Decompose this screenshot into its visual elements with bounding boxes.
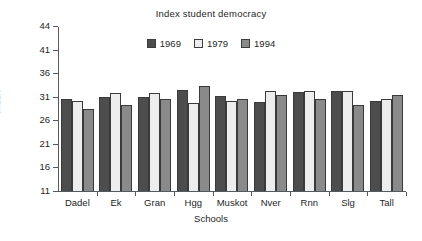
chart-title: Index student democracy xyxy=(0,8,422,19)
bar xyxy=(83,109,94,192)
y-axis-tick: 44 xyxy=(53,26,58,27)
y-axis-tick: 41 xyxy=(53,50,58,51)
x-axis-label: Muskot xyxy=(217,197,248,208)
bar-chart: Index student democracy 196919791994 Ind… xyxy=(0,0,422,241)
plot-area: 1116212631364144 xyxy=(58,27,406,192)
x-axis-label: Rnn xyxy=(301,197,318,208)
bar xyxy=(254,102,265,191)
y-axis-tick-label: 21 xyxy=(39,138,50,149)
x-axis-tick xyxy=(135,192,136,196)
y-axis-tick-label: 31 xyxy=(39,91,50,102)
x-axis-tick xyxy=(97,192,98,196)
x-axis-tick xyxy=(174,192,175,196)
x-axis-title: Schools xyxy=(0,213,422,224)
bar xyxy=(199,86,210,191)
bar-group xyxy=(97,93,136,191)
bar xyxy=(177,90,188,191)
x-axis-tick xyxy=(213,192,214,196)
x-axis-tick xyxy=(329,192,330,196)
x-axis-tick xyxy=(251,192,252,196)
bar xyxy=(381,99,392,191)
bar-group xyxy=(58,99,97,191)
bar xyxy=(331,91,342,191)
bar-group xyxy=(251,91,290,191)
bar xyxy=(353,105,364,191)
x-axis-label: Dadel xyxy=(65,197,90,208)
y-axis-tick-label: 44 xyxy=(39,20,50,31)
bar xyxy=(265,91,276,191)
bar xyxy=(370,101,381,192)
bar xyxy=(61,99,72,191)
bar xyxy=(342,91,353,191)
bar xyxy=(121,105,132,191)
bar xyxy=(188,103,199,191)
x-axis-tick xyxy=(406,192,407,196)
bar xyxy=(138,97,149,191)
bar-group xyxy=(213,96,252,191)
y-axis-tick: 36 xyxy=(53,73,58,74)
bar xyxy=(226,101,237,191)
bar xyxy=(237,99,248,191)
bar-group xyxy=(290,91,329,191)
bar xyxy=(392,95,403,191)
x-axis-label: Hgg xyxy=(185,197,202,208)
bar xyxy=(149,93,160,191)
y-axis-tick-label: 36 xyxy=(39,67,50,78)
y-axis-tick: 11 xyxy=(53,191,58,192)
x-axis-label: Tall xyxy=(380,197,394,208)
bar xyxy=(304,91,315,191)
bar xyxy=(276,95,287,191)
bar xyxy=(293,92,304,191)
bar xyxy=(72,101,83,192)
bar-group xyxy=(174,86,213,191)
y-axis-title: Index xyxy=(0,72,2,132)
x-axis-label: Slg xyxy=(341,197,355,208)
bar xyxy=(110,93,121,191)
x-axis-line xyxy=(58,191,406,192)
bar xyxy=(99,97,110,191)
x-axis-tick xyxy=(290,192,291,196)
y-axis-tick-label: 11 xyxy=(40,185,50,196)
y-axis-tick-label: 16 xyxy=(39,161,50,172)
bar xyxy=(315,99,326,191)
x-axis-label: Nver xyxy=(261,197,281,208)
y-axis-tick: 31 xyxy=(53,97,58,98)
x-axis-label: Ek xyxy=(110,197,121,208)
bar xyxy=(215,96,226,191)
y-axis-tick-label: 26 xyxy=(39,114,50,125)
x-axis-label: Gran xyxy=(144,197,165,208)
x-axis-tick xyxy=(367,192,368,196)
bar-group xyxy=(367,95,406,191)
bar-group xyxy=(135,93,174,191)
y-axis-tick-label: 41 xyxy=(39,44,50,55)
bar-group xyxy=(329,91,368,191)
bar xyxy=(160,99,171,191)
